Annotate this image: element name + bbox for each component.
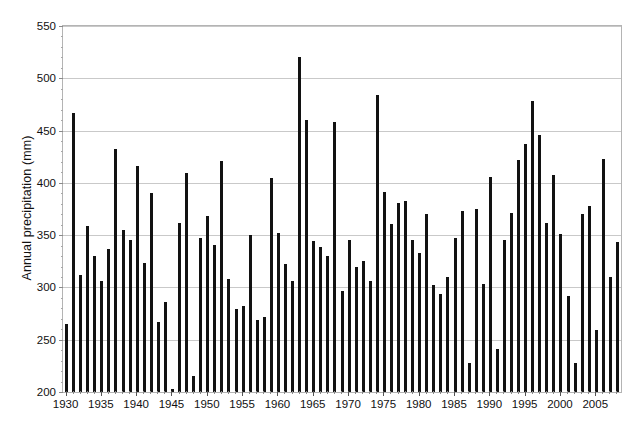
bar: [136, 166, 139, 392]
bar: [524, 144, 527, 392]
x-tick-mark-1947: [186, 391, 187, 394]
x-tick-label-1980: 1980: [406, 398, 432, 410]
x-tick-label-1935: 1935: [88, 398, 114, 410]
y-axis-title-text: Annual precipitation (mm): [20, 78, 34, 338]
x-tick-mark-1944: [164, 391, 165, 394]
plot-area: 200250300350400450500550: [62, 25, 622, 393]
x-tick-mark-1978: [405, 391, 406, 394]
bar: [369, 281, 372, 392]
x-tick-mark-1988: [475, 391, 476, 394]
bar: [397, 203, 400, 392]
x-tick-mark-1987: [468, 391, 469, 394]
x-tick-mark-1943: [157, 391, 158, 394]
x-tick-mark-1951: [214, 391, 215, 394]
x-tick-label-1965: 1965: [300, 398, 326, 410]
x-tick-label-2000: 2000: [547, 398, 573, 410]
bar: [220, 161, 223, 392]
bar: [206, 216, 209, 392]
x-tick-label-1955: 1955: [229, 398, 255, 410]
bar: [545, 223, 548, 392]
bar: [107, 249, 110, 392]
bar: [93, 256, 96, 392]
x-tick-mark-1979: [412, 391, 413, 394]
x-tick-label-1995: 1995: [512, 398, 538, 410]
bar: [588, 206, 591, 392]
x-tick-label-1985: 1985: [441, 398, 467, 410]
x-tick-mark-1991: [496, 391, 497, 394]
x-tick-mark-1981: [426, 391, 427, 394]
x-tick-mark-1995: [525, 391, 526, 396]
x-tick-mark-2005: [595, 391, 596, 396]
bar: [538, 135, 541, 392]
x-tick-mark-1982: [433, 391, 434, 394]
x-tick-mark-2000: [560, 391, 561, 396]
x-tick-mark-1998: [546, 391, 547, 394]
bar: [595, 330, 598, 392]
x-tick-mark-2003: [581, 391, 582, 394]
y-tick-label-400: 400: [37, 177, 56, 189]
x-tick-label-1940: 1940: [123, 398, 149, 410]
x-tick-mark-1952: [221, 391, 222, 394]
x-tick-mark-1937: [115, 391, 116, 394]
x-tick-mark-1994: [518, 391, 519, 394]
bar: [552, 175, 555, 393]
x-tick-mark-1965: [313, 391, 314, 396]
x-tick-mark-1960: [277, 391, 278, 396]
x-tick-mark-1984: [447, 391, 448, 394]
x-tick-mark-1930: [66, 391, 67, 396]
x-tick-mark-1986: [461, 391, 462, 394]
x-tick-mark-1992: [503, 391, 504, 394]
bar: [616, 242, 619, 392]
x-tick-mark-2002: [574, 391, 575, 394]
bar: [164, 302, 167, 392]
bar: [150, 193, 153, 392]
bar: [383, 192, 386, 392]
bar: [312, 241, 315, 392]
bar: [602, 159, 605, 392]
bar: [411, 240, 414, 392]
x-tick-mark-1966: [320, 391, 321, 394]
bar: [192, 376, 195, 392]
x-tick-mark-1953: [228, 391, 229, 394]
x-tick-mark-1946: [179, 391, 180, 394]
x-tick-mark-1959: [270, 391, 271, 394]
x-tick-mark-1956: [249, 391, 250, 394]
x-tick-mark-1961: [284, 391, 285, 394]
x-tick-mark-1957: [256, 391, 257, 394]
bar: [305, 120, 308, 392]
bar: [114, 149, 117, 392]
bar: [355, 267, 358, 392]
bar: [86, 226, 89, 392]
bar: [249, 235, 252, 392]
x-tick-mark-1975: [383, 391, 384, 396]
x-tick-mark-2001: [567, 391, 568, 394]
x-tick-label-1975: 1975: [371, 398, 397, 410]
bar: [143, 263, 146, 392]
bar: [341, 291, 344, 392]
bar: [425, 214, 428, 392]
x-tick-mark-1964: [306, 391, 307, 394]
bar: [284, 264, 287, 392]
bar: [609, 277, 612, 392]
y-axis-title: Annual precipitation (mm): [0, 0, 30, 432]
x-tick-mark-1999: [553, 391, 554, 394]
x-tick-mark-1983: [440, 391, 441, 394]
bar: [517, 160, 520, 392]
bar: [496, 349, 499, 392]
y-tick-label-500: 500: [37, 72, 56, 84]
x-axis: 1930193519401945195019551960196519701975…: [62, 391, 622, 432]
bar: [574, 363, 577, 392]
bar: [326, 256, 329, 392]
x-tick-label-1930: 1930: [53, 398, 79, 410]
x-tick-mark-1970: [348, 391, 349, 396]
bar: [178, 223, 181, 392]
x-tick-label-2005: 2005: [582, 398, 608, 410]
bar: [468, 363, 471, 392]
bar: [482, 284, 485, 392]
x-tick-mark-2007: [609, 391, 610, 394]
bar: [390, 224, 393, 392]
bar: [404, 201, 407, 392]
x-tick-mark-1989: [482, 391, 483, 394]
x-tick-mark-1932: [80, 391, 81, 394]
x-tick-mark-1980: [419, 391, 420, 396]
